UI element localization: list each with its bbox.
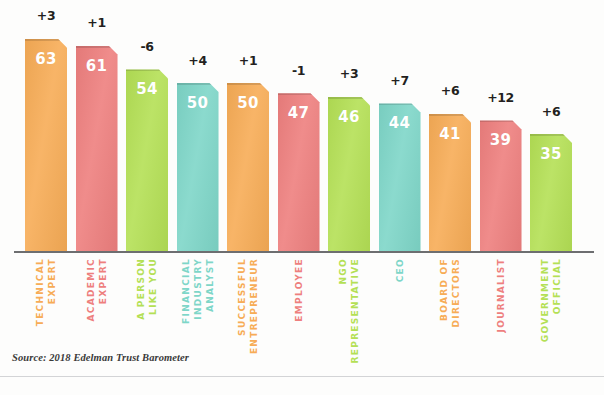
bar-delta-label: +12: [480, 92, 522, 105]
bar-slot: +1239: [480, 2, 522, 253]
bar-top-edge: [76, 46, 118, 48]
category-label-slot: CEO: [379, 253, 421, 348]
bar-slot: -147: [278, 2, 320, 253]
bar[interactable]: 41: [429, 114, 471, 253]
bar[interactable]: 47: [278, 93, 320, 253]
bar-top-edge: [429, 114, 471, 116]
bar-top-edge: [379, 103, 421, 105]
category-label-line: DIRECTORS: [450, 258, 462, 327]
bar[interactable]: 44: [379, 103, 421, 253]
category-label: BOARD OFDIRECTORS: [438, 258, 462, 327]
bar-delta-label: +7: [379, 75, 421, 88]
bar-delta-label: +1: [227, 55, 269, 68]
bar-slot: -654: [126, 2, 168, 253]
bar-top-edge: [530, 134, 572, 136]
category-label-slot: NGOREPRESENTATIVE: [328, 253, 370, 348]
bar[interactable]: 50: [177, 83, 219, 253]
category-label-line: NGO: [337, 258, 349, 363]
category-label-line: INDUSTRY: [192, 258, 204, 324]
category-label-line: ACADEMIC: [85, 258, 97, 321]
bar[interactable]: 35: [530, 134, 572, 253]
bar-value-label: 54: [126, 82, 168, 97]
bar-delta-label: +6: [429, 85, 471, 98]
category-label: ACADEMICEXPERT: [85, 258, 109, 321]
bar-delta-label: +4: [177, 55, 219, 68]
category-label-line: REPRESENTATIVE: [349, 258, 361, 363]
bar-slot: +346: [328, 2, 370, 253]
bottom-divider: [0, 376, 604, 377]
category-label-slot: TECHNICALEXPERT: [25, 253, 67, 348]
bar-delta-label: +3: [328, 68, 370, 81]
bar[interactable]: 50: [227, 83, 269, 253]
category-label-line: ANALYST: [204, 258, 216, 324]
bar-slot: +150: [227, 2, 269, 253]
category-label: JOURNALIST: [495, 258, 507, 332]
bar-value-label: 44: [379, 116, 421, 131]
category-label-slot: A PERSONLIKE YOU: [126, 253, 168, 348]
category-label-line: ENTREPRENEUR: [248, 258, 260, 354]
bar-top-edge: [328, 97, 370, 99]
category-label-line: OFFICIAL: [551, 258, 563, 342]
bar-value-label: 35: [530, 147, 572, 162]
bar[interactable]: 63: [25, 39, 67, 253]
bar-delta-label: -1: [278, 65, 320, 78]
bar-delta-label: +3: [25, 10, 67, 23]
category-label: TECHNICALEXPERT: [34, 258, 58, 326]
bar-value-label: 39: [480, 133, 522, 148]
bar-shading: [76, 46, 118, 253]
bar-value-label: 63: [25, 52, 67, 67]
category-label-line: BOARD OF: [438, 258, 450, 327]
category-label: SUCCESSFULENTREPRENEUR: [236, 258, 260, 354]
bar-value-label: 47: [278, 106, 320, 121]
bar-slot: +635: [530, 2, 572, 253]
bar-top-edge: [126, 69, 168, 71]
bar-value-label: 50: [227, 96, 269, 111]
bar-slot: +744: [379, 2, 421, 253]
category-label-slot: ACADEMICEXPERT: [76, 253, 118, 348]
bar-shading: [25, 39, 67, 253]
category-label: NGOREPRESENTATIVE: [337, 258, 361, 363]
category-label-line: A PERSON: [135, 258, 147, 320]
bar-value-label: 61: [76, 59, 118, 74]
bar-value-label: 50: [177, 96, 219, 111]
category-label-line: TECHNICAL: [34, 258, 46, 326]
bar-top-edge: [278, 93, 320, 95]
bar-delta-label: -6: [126, 41, 168, 54]
bar-slot: +450: [177, 2, 219, 253]
bar-top-edge: [227, 83, 269, 85]
category-label-slot: FINANCIALINDUSTRYANALYST: [177, 253, 219, 348]
category-label: FINANCIALINDUSTRYANALYST: [180, 258, 216, 324]
bar[interactable]: 39: [480, 120, 522, 253]
source-note: Source: 2018 Edelman Trust Barometer: [12, 352, 189, 363]
category-label-slot: EMPLOYEE: [278, 253, 320, 348]
bar-top-edge: [177, 83, 219, 85]
bar-value-label: 46: [328, 110, 370, 125]
category-label-line: SUCCESSFUL: [236, 258, 248, 354]
category-label-line: FINANCIAL: [180, 258, 192, 324]
category-label-slot: JOURNALIST: [480, 253, 522, 348]
category-label-line: CEO: [394, 258, 406, 282]
category-label-slot: BOARD OFDIRECTORS: [429, 253, 471, 348]
category-label-line: EMPLOYEE: [293, 258, 305, 322]
bar[interactable]: 46: [328, 97, 370, 253]
category-label: A PERSONLIKE YOU: [135, 258, 159, 320]
bar[interactable]: 61: [76, 46, 118, 253]
category-label-line: GOVERNMENT: [539, 258, 551, 342]
bar-slot: +641: [429, 2, 471, 253]
bar-top-edge: [25, 39, 67, 41]
category-label: GOVERNMENTOFFICIAL: [539, 258, 563, 342]
bar[interactable]: 54: [126, 69, 168, 253]
category-label: EMPLOYEE: [293, 258, 305, 322]
category-label-line: EXPERT: [97, 258, 109, 321]
bar-slot: +161: [76, 2, 118, 253]
category-label-slot: SUCCESSFULENTREPRENEUR: [227, 253, 269, 348]
bar-top-edge: [480, 120, 522, 122]
category-labels: TECHNICALEXPERTACADEMICEXPERTA PERSONLIK…: [0, 253, 604, 348]
category-label-slot: GOVERNMENTOFFICIAL: [530, 253, 572, 348]
category-label-line: EXPERT: [46, 258, 58, 326]
bar-delta-label: +6: [530, 106, 572, 119]
bar-slot: +363: [25, 2, 67, 253]
bar-value-label: 41: [429, 127, 471, 142]
chart-page: +363+161-654+450+150-147+346+744+641+123…: [0, 0, 604, 395]
category-label-line: LIKE YOU: [147, 258, 159, 320]
